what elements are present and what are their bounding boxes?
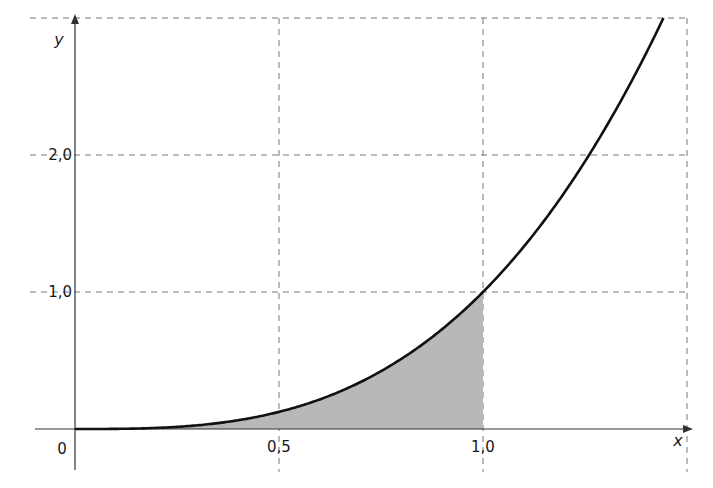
y-tick-label: 2,0	[48, 146, 72, 164]
x-axis-arrow-icon	[683, 425, 693, 433]
y-tick-label: 1,0	[48, 283, 72, 301]
chart: 0,51,01,02,00xy	[0, 0, 713, 488]
function-curve	[75, 18, 663, 429]
y-axis-label: y	[53, 30, 64, 49]
x-axis-label: x	[672, 431, 683, 450]
x-tick-label: 1,0	[471, 438, 495, 456]
x-tick-label: 0,5	[267, 438, 291, 456]
y-axis-arrow-icon	[71, 14, 79, 24]
origin-label: 0	[57, 440, 67, 458]
